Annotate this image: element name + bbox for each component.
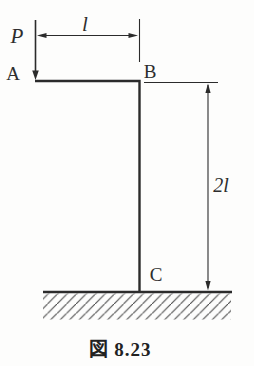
- dim-label-2l: 2l: [213, 174, 229, 196]
- figure-canvas: P l A B C 2l 図 8.23: [0, 0, 254, 366]
- frame-diagram: P l A B C 2l: [0, 0, 254, 366]
- dimension-2l: [205, 84, 210, 291]
- dim-label-l: l: [82, 12, 88, 36]
- ground-hatching: [43, 294, 231, 320]
- force-p-arrow: [32, 20, 39, 80]
- figure-caption: 図 8.23: [0, 334, 240, 361]
- point-label-a: A: [6, 63, 20, 84]
- point-label-b: B: [144, 61, 157, 82]
- point-label-c: C: [150, 264, 163, 285]
- dimension-l: [37, 19, 140, 62]
- force-label-p: P: [10, 24, 24, 48]
- frame-member: [35, 81, 140, 292]
